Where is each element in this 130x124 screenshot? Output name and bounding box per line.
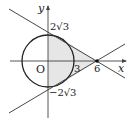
y-axis-arrow bbox=[46, 5, 50, 10]
origin-label: O bbox=[36, 64, 45, 75]
label-y-top: 2√3 bbox=[50, 22, 69, 32]
label-x-three: 3 bbox=[74, 64, 80, 74]
diagram-graphics bbox=[0, 0, 130, 124]
label-y-bottom: −2√3 bbox=[49, 88, 76, 98]
diagram: y 2√3 O 3 6 x −2√3 bbox=[0, 0, 130, 124]
label-x-six: 6 bbox=[94, 64, 100, 74]
y-axis-label: y bbox=[38, 3, 44, 14]
x-axis-label: x bbox=[118, 63, 124, 74]
